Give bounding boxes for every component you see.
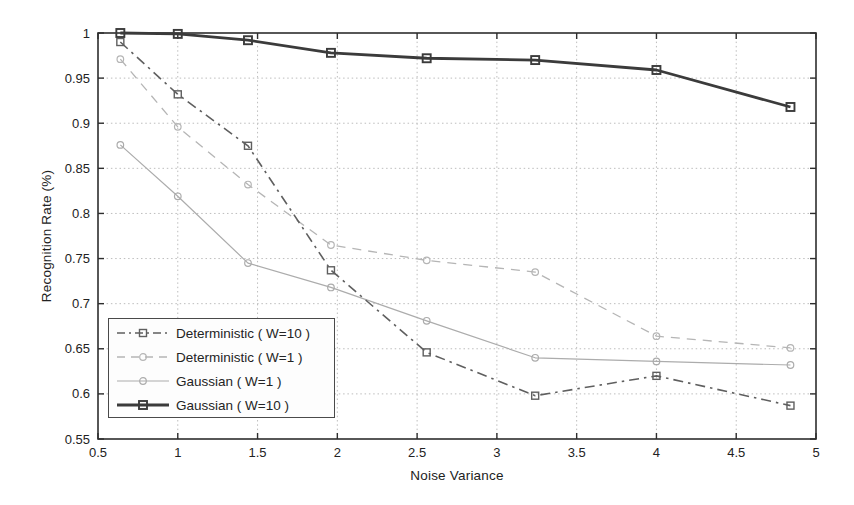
y-tick-label: 0.6: [72, 386, 90, 401]
x-axis-label: Noise Variance: [98, 468, 816, 483]
y-tick-label: 0.55: [65, 432, 90, 447]
y-tick-label: 0.85: [65, 161, 90, 176]
x-tick-label: 1.5: [249, 445, 267, 460]
x-tick-label: 2.5: [408, 445, 426, 460]
legend-label-gaussian-w1: Gaussian ( W=1 ): [176, 374, 281, 389]
legend-entry-gaussian-w10: Gaussian ( W=10 ): [109, 393, 334, 417]
legend-label-gaussian-w10: Gaussian ( W=10 ): [176, 398, 289, 413]
chart-figure: 0.511.522.533.544.550.550.60.650.70.750.…: [0, 0, 854, 505]
y-tick-label: 1: [83, 26, 90, 41]
x-tick-label: 3.5: [568, 445, 586, 460]
x-tick-label: 1: [174, 445, 181, 460]
legend-line-sample-gaussian-w10: [115, 397, 171, 413]
series-marker-deterministic-w1: [328, 242, 335, 249]
series-marker-deterministic-w1: [117, 56, 124, 63]
x-tick-label: 2: [334, 445, 341, 460]
y-tick-label: 0.9: [72, 116, 90, 131]
x-tick-label: 3: [493, 445, 500, 460]
legend-label-deterministic-w1: Deterministic ( W=1 ): [176, 350, 302, 365]
legend: Deterministic ( W=10 )Deterministic ( W=…: [108, 318, 335, 418]
legend-entry-deterministic-w1: Deterministic ( W=1 ): [109, 345, 334, 369]
x-tick-label: 5: [812, 445, 819, 460]
legend-line-sample-deterministic-w1: [115, 349, 171, 365]
series-line-deterministic-w1: [120, 59, 790, 348]
y-tick-label: 0.8: [72, 206, 90, 221]
line-chart-canvas: 0.511.522.533.544.550.550.60.650.70.750.…: [0, 0, 854, 505]
y-tick-label: 0.7: [72, 296, 90, 311]
y-tick-label: 0.95: [65, 71, 90, 86]
series-marker-gaussian-w1: [117, 142, 124, 149]
x-tick-label: 0.5: [89, 445, 107, 460]
x-tick-label: 4: [653, 445, 660, 460]
y-tick-label: 0.65: [65, 341, 90, 356]
legend-label-deterministic-w10: Deterministic ( W=10 ): [176, 326, 310, 341]
x-tick-label: 4.5: [727, 445, 745, 460]
y-tick-label: 0.75: [65, 251, 90, 266]
series-line-gaussian-w10: [120, 33, 790, 107]
y-axis-label: Recognition Rate (%): [39, 170, 54, 302]
legend-entry-deterministic-w10: Deterministic ( W=10 ): [109, 321, 334, 345]
legend-entry-gaussian-w1: Gaussian ( W=1 ): [109, 369, 334, 393]
legend-line-sample-deterministic-w10: [115, 325, 171, 341]
legend-line-sample-gaussian-w1: [115, 373, 171, 389]
